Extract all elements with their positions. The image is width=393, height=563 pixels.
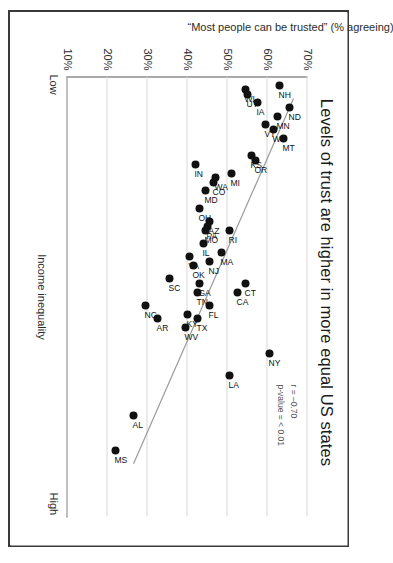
data-point-label: IN (194, 169, 203, 178)
x-axis-low-label: Low (47, 74, 59, 94)
rotated-figure-container: Levels of trust are higher in more equal… (10, 12, 347, 545)
data-point (201, 186, 209, 194)
data-point-label: NY (268, 358, 280, 367)
data-point-label: AR (156, 323, 168, 332)
data-point (275, 81, 283, 89)
trendline (133, 98, 293, 463)
data-point (227, 169, 235, 177)
data-point-label: NC (144, 310, 156, 319)
data-point (261, 120, 269, 128)
data-point (181, 323, 189, 331)
data-point (199, 239, 207, 247)
data-point (209, 178, 217, 186)
y-axis-title: “Most people can be trusted” (% agreeing… (187, 20, 393, 32)
data-point-label: VT (264, 129, 275, 138)
data-point-label: MD (204, 195, 217, 204)
y-axis-tick-label: 40% (181, 48, 193, 70)
y-axis-tick-label: 10% (61, 48, 73, 70)
y-axis-tick-label: 60% (261, 48, 273, 70)
data-point (225, 226, 233, 234)
data-point-label: CT (244, 288, 255, 297)
correlation-value: r = –0.70 (286, 384, 299, 445)
y-axis-tick-label: 70% (301, 48, 313, 70)
data-point-label: SC (168, 283, 180, 292)
data-point (165, 274, 173, 282)
data-point-label: FL (208, 310, 218, 319)
data-point-label: NJ (208, 266, 218, 275)
data-point-label: OK (192, 270, 204, 279)
data-point (111, 446, 119, 454)
x-axis-high-label: High (47, 492, 59, 515)
data-point-label: ND (288, 112, 300, 121)
data-point (241, 85, 249, 93)
x-axis-title: Income inequality (35, 76, 47, 517)
data-point-label: MT (282, 143, 294, 152)
data-point-label: OR (254, 165, 267, 174)
data-point (183, 310, 191, 318)
pvalue-value: p-value = < 0.01 (274, 384, 287, 445)
data-point (285, 103, 293, 111)
data-point (205, 257, 213, 265)
y-axis-tick-label: 50% (221, 48, 233, 70)
scatter-chart-figure: Levels of trust are higher in more equal… (10, 12, 347, 545)
data-point-label: AL (132, 420, 142, 429)
data-point (217, 248, 225, 256)
data-point (141, 301, 149, 309)
data-point (225, 371, 233, 379)
data-point (191, 160, 199, 168)
data-point-label: IA (256, 107, 264, 116)
data-point-label: IL (202, 248, 209, 257)
statistics-annotation: r = –0.70 p-value = < 0.01 (274, 384, 300, 445)
data-point-label: RI (228, 235, 237, 244)
data-point (129, 411, 137, 419)
data-point-label: WV (184, 332, 198, 341)
data-point (241, 279, 249, 287)
data-point (193, 288, 201, 296)
data-point-label: WI (244, 94, 254, 103)
trendline-svg (67, 76, 307, 516)
data-point-label: VA (188, 261, 199, 270)
data-point-label: CA (236, 297, 248, 306)
data-point (273, 112, 281, 120)
page-title: Levels of trust are higher in more equal… (316, 62, 335, 502)
data-point (201, 226, 209, 234)
data-point (195, 204, 203, 212)
data-point-label: MI (230, 178, 239, 187)
data-point-label: MA (220, 257, 233, 266)
data-point-label: LA (228, 380, 238, 389)
data-point (233, 288, 241, 296)
data-point (251, 156, 259, 164)
data-point-label: NH (278, 90, 290, 99)
data-point (185, 252, 193, 260)
data-point-label: MN (276, 121, 289, 130)
data-point (265, 349, 273, 357)
data-point-label: MS (114, 455, 127, 464)
data-point (205, 301, 213, 309)
plot-area: 70%60%50%40%30%20%10% NDNHMTMNWYVTUTIAWI… (67, 76, 307, 516)
data-point (195, 279, 203, 287)
y-axis-tick-label: 30% (141, 48, 153, 70)
figure-frame: Levels of trust are higher in more equal… (8, 10, 349, 547)
y-axis-tick-label: 20% (101, 48, 113, 70)
